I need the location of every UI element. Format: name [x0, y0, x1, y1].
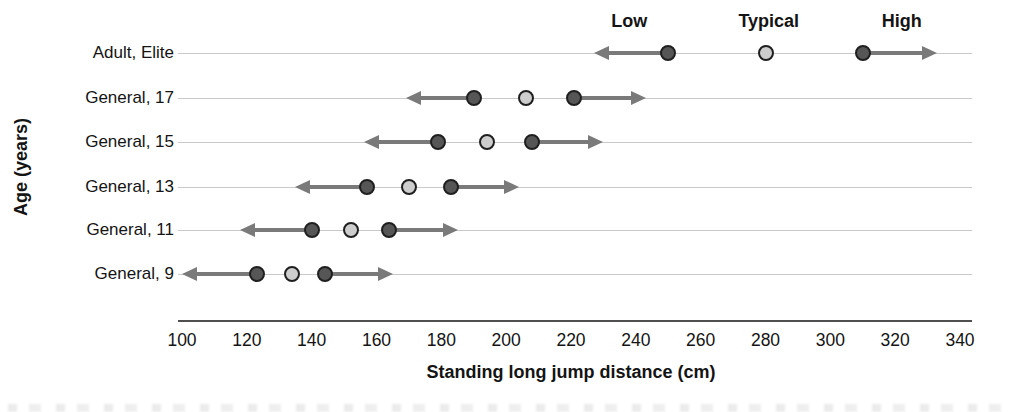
x-tick-label: 280	[751, 330, 780, 351]
plot-area: Adult, EliteGeneral, 17General, 15Genera…	[0, 0, 1010, 412]
arrowhead-right-icon	[443, 223, 458, 237]
low-marker-dot	[249, 266, 265, 282]
arrowhead-right-icon	[588, 135, 603, 149]
low-marker-dot	[466, 90, 482, 106]
y-axis-title: Age (years)	[11, 118, 32, 216]
arrowhead-left-icon	[295, 180, 310, 194]
arrowhead-left-icon	[406, 91, 421, 105]
row-line	[178, 53, 972, 54]
typical-marker-dot	[758, 45, 774, 61]
x-tick-label: 180	[427, 330, 456, 351]
row-label: General, 11	[0, 219, 174, 241]
high-marker-dot	[855, 45, 871, 61]
page-cutoff-artifact	[8, 404, 1004, 412]
typical-marker-dot	[518, 90, 534, 106]
x-tick-label: 320	[881, 330, 910, 351]
low-marker-dot	[304, 222, 320, 238]
arrowhead-left-icon	[182, 267, 197, 281]
x-tick-label: 260	[686, 330, 715, 351]
arrowhead-right-icon	[378, 267, 393, 281]
row-label: General, 9	[0, 263, 174, 285]
x-tick-label: 100	[167, 330, 196, 351]
typical-marker-dot	[343, 222, 359, 238]
arrowhead-left-icon	[240, 223, 255, 237]
low-marker-dot	[359, 179, 375, 195]
range-arrow-left-shaft	[606, 51, 669, 55]
arrowhead-right-icon	[631, 91, 646, 105]
arrowhead-left-icon	[364, 135, 379, 149]
x-tick-label: 300	[816, 330, 845, 351]
x-tick-label: 220	[556, 330, 585, 351]
range-arrow-right-shaft	[325, 272, 381, 276]
arrowhead-left-icon	[594, 46, 609, 60]
arrowhead-right-icon	[504, 180, 519, 194]
figure: Low Typical High Adult, EliteGeneral, 17…	[0, 0, 1010, 412]
x-tick-label: 160	[362, 330, 391, 351]
high-marker-dot	[524, 134, 540, 150]
high-marker-dot	[443, 179, 459, 195]
typical-marker-dot	[479, 134, 495, 150]
range-arrow-right-shaft	[389, 228, 445, 232]
x-axis-line	[178, 320, 972, 322]
x-tick-label: 240	[621, 330, 650, 351]
range-arrow-right-shaft	[574, 96, 633, 100]
typical-marker-dot	[401, 179, 417, 195]
x-tick-label: 140	[297, 330, 326, 351]
high-marker-dot	[566, 90, 582, 106]
range-arrow-right-shaft	[863, 51, 926, 55]
high-marker-dot	[317, 266, 333, 282]
x-tick-label: 120	[232, 330, 261, 351]
range-arrow-right-shaft	[532, 140, 591, 144]
high-marker-dot	[381, 222, 397, 238]
arrowhead-right-icon	[922, 46, 937, 60]
low-marker-dot	[660, 45, 676, 61]
range-arrow-left-shaft	[376, 140, 439, 144]
row-label: Adult, Elite	[0, 42, 174, 64]
low-marker-dot	[430, 134, 446, 150]
range-arrow-left-shaft	[194, 272, 257, 276]
row-label: General, 17	[0, 87, 174, 109]
typical-marker-dot	[284, 266, 300, 282]
x-axis-title: Standing long jump distance (cm)	[426, 362, 715, 383]
range-arrow-right-shaft	[451, 185, 507, 189]
x-tick-label: 200	[492, 330, 521, 351]
x-tick-label: 340	[945, 330, 974, 351]
